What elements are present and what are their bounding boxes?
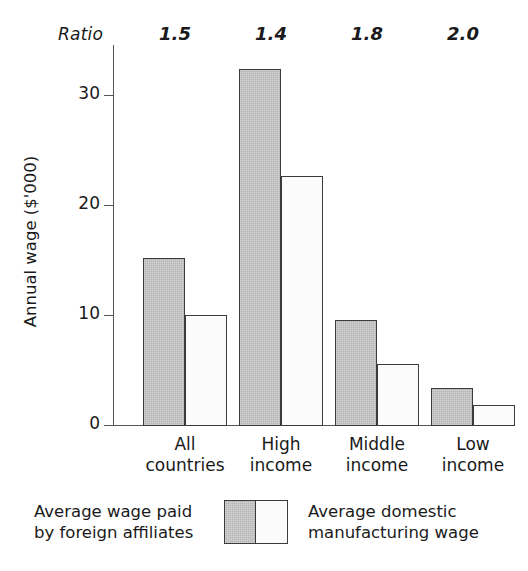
y-tick-label-20: 20 <box>60 195 100 212</box>
y-tick-10 <box>104 315 114 316</box>
ratio-value-middle-income: 1.8 <box>322 23 412 44</box>
ratio-value-low-income: 2.0 <box>418 23 508 44</box>
legend-label-foreign-affiliates-line2: by foreign affiliates <box>34 522 220 543</box>
bar-middle-income-foreign <box>335 320 377 426</box>
y-axis-line <box>113 45 114 426</box>
chart-legend: Average wage paid by foreign affiliates … <box>0 500 528 570</box>
bar-low-income-domestic <box>473 405 515 426</box>
y-tick-label-30: 30 <box>60 85 100 102</box>
legend-label-foreign-affiliates-line1: Average wage paid <box>34 501 220 522</box>
y-tick-0 <box>104 425 114 426</box>
x-category-low-income-line1: Low <box>413 434 528 455</box>
legend-label-domestic-manufacturing-line1: Average domestic <box>308 501 494 522</box>
x-category-low-income: Low income <box>413 434 528 475</box>
y-tick-20 <box>104 205 114 206</box>
y-tick-30 <box>104 95 114 96</box>
chart-figure: Ratio 1.5 1.4 1.8 2.0 30 20 10 0 Annual … <box>0 0 528 571</box>
y-tick-label-0: 0 <box>60 415 100 432</box>
y-axis-title: Annual wage ($'000) <box>21 107 40 377</box>
bar-low-income-foreign <box>431 388 473 426</box>
legend-swatch-white <box>256 501 287 543</box>
ratio-row-label: Ratio <box>58 24 103 44</box>
bar-high-income-domestic <box>281 176 323 426</box>
bar-high-income-foreign <box>239 69 281 426</box>
legend-label-foreign-affiliates: Average wage paid by foreign affiliates <box>34 501 220 544</box>
bar-all-countries-foreign <box>143 258 185 426</box>
ratio-value-high-income: 1.4 <box>226 23 316 44</box>
x-category-low-income-line2: income <box>413 455 528 476</box>
legend-swatch-pair <box>224 500 288 544</box>
legend-label-domestic-manufacturing: Average domestic manufacturing wage <box>292 501 494 544</box>
bar-middle-income-domestic <box>377 364 419 426</box>
bar-all-countries-domestic <box>185 315 227 426</box>
legend-label-domestic-manufacturing-line2: manufacturing wage <box>308 522 494 543</box>
legend-swatch-gray <box>225 501 256 543</box>
ratio-value-all-countries: 1.5 <box>130 23 220 44</box>
y-tick-label-10: 10 <box>60 305 100 322</box>
